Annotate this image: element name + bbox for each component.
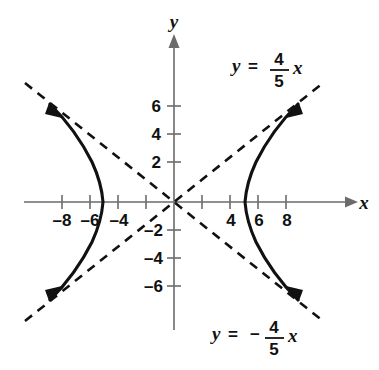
lower-label-numerator: 4 <box>269 318 279 337</box>
y-axis-arrowhead <box>169 34 180 48</box>
lower-label-variable: x <box>287 325 298 346</box>
y-tick-label--2: –2 <box>144 221 163 240</box>
lower-label-equals: = <box>228 325 238 344</box>
upper-label-equals: = <box>248 57 258 76</box>
y-tick-label-2: 2 <box>152 153 161 172</box>
x-axis-label: x <box>358 192 369 213</box>
x-axis-arrowhead <box>345 197 358 208</box>
y-tick-label--6: –6 <box>144 277 163 296</box>
lower-label-lhs: y <box>210 323 221 344</box>
y-tick-label-4: 4 <box>152 125 162 144</box>
upper-label-lhs: y <box>230 55 241 76</box>
x-tick-labels: –8 –6 –4 4 6 8 <box>53 211 292 230</box>
x-tick-label-6: 6 <box>254 211 263 230</box>
y-tick-label-6: 6 <box>152 97 161 116</box>
axes-group <box>24 34 358 330</box>
x-tick-label-4: 4 <box>226 211 236 230</box>
y-tick-label--4: –4 <box>144 249 163 268</box>
asymptote-label-upper: y = 4 5 x <box>230 50 303 91</box>
x-tick-label--6: –6 <box>81 211 100 230</box>
x-tick-label--4: –4 <box>110 211 129 230</box>
hyperbola-figure: –8 –6 –4 4 6 8 6 4 2 –2 –4 –6 x y y = 4 … <box>0 0 379 370</box>
y-tick-labels: 6 4 2 –2 –4 –6 <box>144 97 163 296</box>
x-tick-label-8: 8 <box>282 211 291 230</box>
upper-label-variable: x <box>292 57 303 78</box>
upper-label-denominator: 5 <box>274 72 283 91</box>
asymptote-label-lower: y = − 4 5 x <box>210 318 298 359</box>
lower-label-denominator: 5 <box>269 340 278 359</box>
upper-label-numerator: 4 <box>274 50 284 69</box>
y-axis-label: y <box>168 11 179 32</box>
lower-label-sign: − <box>250 325 260 344</box>
x-tick-label--8: –8 <box>53 211 72 230</box>
hyperbola-plot: –8 –6 –4 4 6 8 6 4 2 –2 –4 –6 x y y = 4 … <box>0 0 379 370</box>
